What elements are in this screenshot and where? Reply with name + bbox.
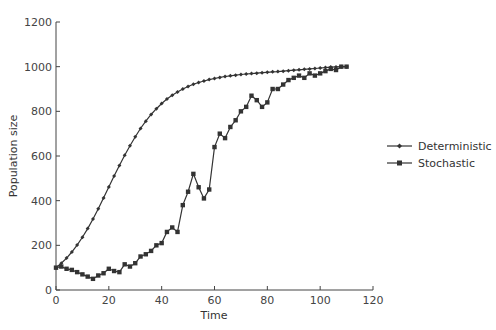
- population-chart: 020406080100120020040060080010001200 Tim…: [0, 0, 496, 330]
- y-tick-label: 400: [31, 195, 52, 208]
- x-tick-label: 60: [208, 294, 222, 307]
- series-deterministic: [54, 65, 349, 270]
- y-tick-label: 1000: [24, 61, 52, 74]
- diamond-marker-icon: [397, 144, 402, 149]
- y-tick-label: 0: [45, 284, 52, 297]
- y-tick-label: 200: [31, 239, 52, 252]
- x-axis-title: Time: [200, 309, 228, 322]
- series-stochastic: [54, 64, 349, 281]
- legend-item-stochastic: Stochastic: [387, 157, 475, 170]
- x-tick-label: 100: [310, 294, 331, 307]
- x-tick-label: 40: [155, 294, 169, 307]
- legend: Deterministic Stochastic: [387, 140, 492, 170]
- legend-label-stochastic: Stochastic: [418, 157, 475, 170]
- y-tick-label: 600: [31, 150, 52, 163]
- x-tick-label: 0: [53, 294, 60, 307]
- legend-item-deterministic: Deterministic: [387, 140, 492, 153]
- y-tick-label: 1200: [24, 16, 52, 29]
- square-marker-icon: [397, 161, 402, 166]
- x-tick-label: 20: [102, 294, 116, 307]
- axes: 020406080100120020040060080010001200: [24, 16, 384, 307]
- y-axis-title: Population size: [7, 114, 20, 197]
- x-tick-label: 80: [260, 294, 274, 307]
- x-tick-label: 120: [363, 294, 384, 307]
- series-layer: [54, 64, 349, 281]
- legend-label-deterministic: Deterministic: [418, 140, 492, 153]
- y-tick-label: 800: [31, 105, 52, 118]
